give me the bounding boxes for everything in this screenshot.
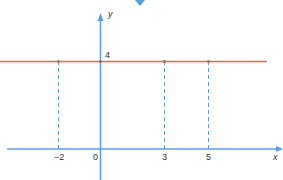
tick-label-0: 0 <box>93 152 98 162</box>
tick-label-5: 5 <box>206 152 211 162</box>
y-value-label: 4 <box>105 50 110 60</box>
y-axis-arrow-icon <box>98 13 104 21</box>
point-neg2-4 <box>57 60 60 63</box>
y-axis-label: y <box>107 9 113 19</box>
point-5-4 <box>207 60 210 63</box>
tick-label-neg2: −2 <box>54 152 64 162</box>
point-3-4 <box>163 60 166 63</box>
graph-canvas: y x 4 −2 0 3 5 <box>0 0 283 180</box>
point-0-4 <box>99 60 102 63</box>
down-arrow-icon <box>135 0 145 6</box>
x-axis-label: x <box>272 152 278 162</box>
tick-label-3: 3 <box>162 152 167 162</box>
